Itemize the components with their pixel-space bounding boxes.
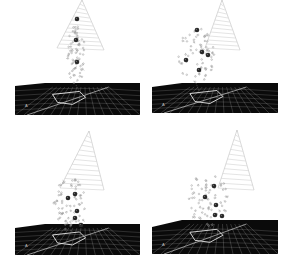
cone-wireframe bbox=[218, 130, 254, 190]
dark-spheres bbox=[66, 192, 84, 228]
ground-plane: A bbox=[15, 224, 140, 255]
cone-wireframe bbox=[57, 0, 104, 50]
cone-wireframe bbox=[205, 0, 240, 50]
cone-wireframe bbox=[60, 131, 104, 190]
svg-text:A: A bbox=[25, 243, 28, 248]
scene-render: A bbox=[0, 0, 143, 128]
panel-top-right: A bbox=[143, 0, 286, 128]
svg-text:A: A bbox=[25, 103, 28, 108]
scene-render: A bbox=[0, 128, 143, 256]
ground-plane: A bbox=[152, 83, 278, 113]
ground-plane: A bbox=[15, 83, 140, 115]
atom-cluster bbox=[66, 26, 85, 91]
svg-text:A: A bbox=[162, 242, 165, 247]
dark-spheres bbox=[203, 184, 225, 219]
ground-plane: A bbox=[152, 220, 278, 254]
panel-top-left: A bbox=[0, 0, 143, 128]
atom-cluster bbox=[178, 28, 215, 91]
scene-render: A bbox=[143, 0, 286, 128]
svg-text:A: A bbox=[162, 102, 165, 107]
panel-bottom-right: A bbox=[143, 128, 286, 256]
panel-bottom-left: A bbox=[0, 128, 143, 256]
scene-render: A bbox=[143, 128, 286, 256]
